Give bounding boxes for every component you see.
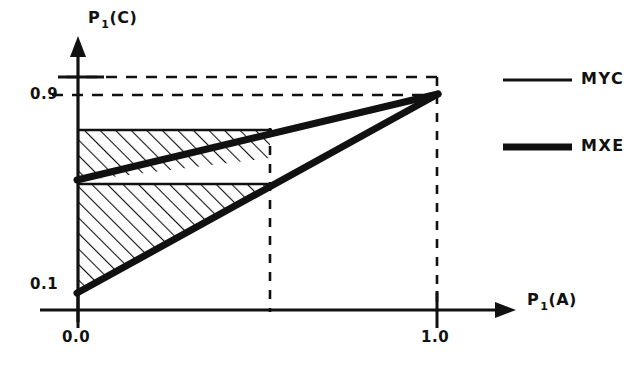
x-axis-title-tail: (A) (548, 290, 577, 309)
y-axis-tick-label-0-9: 0.9 (30, 87, 58, 102)
x-axis (40, 291, 516, 328)
legend-label-mxe: MXE (581, 138, 625, 154)
x-axis-title: P1(A) (527, 292, 577, 308)
y-axis-title: P1(C) (88, 10, 137, 26)
y-axis-title-base: P (88, 8, 100, 27)
x-axis-title-base: P (527, 290, 539, 309)
legend-label-myc: MYC (581, 71, 624, 87)
chart-canvas (0, 0, 639, 378)
x-axis-title-subscript: 1 (540, 300, 549, 313)
y-axis-title-subscript: 1 (101, 18, 110, 31)
x-axis-tick-label-1-0: 1.0 (421, 330, 449, 345)
x-axis-tick-label-0-0: 0.0 (62, 330, 90, 345)
y-axis-title-tail: (C) (109, 8, 137, 27)
y-axis-tick-label-0-1: 0.1 (30, 277, 58, 292)
chart-figure: P1(C) P1(A) 0.9 0.1 0.0 1.0 MYC MXE (0, 0, 639, 378)
